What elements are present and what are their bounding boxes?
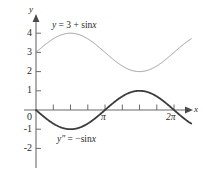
figure-container: 4 3 2 1 0 -1 -2 π 2π y x y = 3 + sinx y″… bbox=[0, 0, 203, 175]
x-tick-label-pi: π bbox=[101, 113, 106, 123]
curve-upper-3-plus-sin-x bbox=[36, 33, 191, 71]
y-tick-label-2: 2 bbox=[20, 66, 32, 76]
curve-upper-label: y = 3 + sinx bbox=[52, 21, 97, 31]
y-tick-label-minus-1: -1 bbox=[16, 124, 32, 134]
y-tick-label-1: 1 bbox=[20, 85, 32, 95]
x-tick-label-2pi: 2π bbox=[166, 113, 176, 123]
y-tick-label-4: 4 bbox=[20, 28, 32, 38]
curve-lower-label: y″ = −sinx bbox=[57, 135, 96, 145]
curve-lower-label-eq: = −sin bbox=[65, 134, 92, 144]
curve-upper-label-eq: = 3 + sin bbox=[56, 20, 92, 30]
y-tick-label-3: 3 bbox=[20, 47, 32, 57]
curve-lower-label-y: y″ bbox=[57, 134, 65, 144]
x-axis-ticks bbox=[53, 105, 174, 111]
x-axis-arrow bbox=[185, 107, 193, 114]
x-axis-label: x bbox=[194, 105, 198, 114]
y-axis-arrow bbox=[33, 14, 40, 22]
y-axis-label: y bbox=[29, 5, 33, 14]
y-tick-label-minus-2: -2 bbox=[16, 143, 32, 153]
curve-upper-label-var: x bbox=[92, 20, 96, 30]
y-tick-label-0: 0 bbox=[20, 112, 32, 122]
curve-lower-label-var: x bbox=[92, 134, 96, 144]
